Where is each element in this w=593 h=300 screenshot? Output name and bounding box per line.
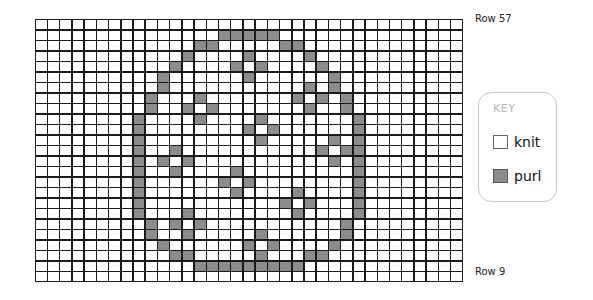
knit-cell: [402, 230, 413, 239]
knit-cell: [73, 251, 84, 260]
knit-cell: [36, 52, 47, 61]
knit-cell: [329, 41, 340, 50]
knit-cell: [378, 220, 389, 229]
knit-cell: [439, 73, 450, 82]
knit-cell: [231, 241, 242, 250]
knit-cell: [317, 125, 328, 134]
knit-cell: [36, 241, 47, 250]
knit-cell: [305, 115, 316, 124]
knit-cell: [451, 178, 462, 187]
purl-cell: [244, 125, 255, 134]
knit-cell: [427, 20, 438, 29]
knit-cell: [170, 136, 181, 145]
knit-cell: [354, 272, 365, 281]
knit-cell: [60, 62, 71, 71]
knit-cell: [439, 157, 450, 166]
knit-cell: [158, 125, 169, 134]
knit-cell: [256, 125, 267, 134]
knit-cell: [366, 125, 377, 134]
purl-cell: [305, 251, 316, 260]
knit-cell: [280, 241, 291, 250]
knit-cell: [329, 188, 340, 197]
knit-cell: [427, 262, 438, 271]
knit-swatch-icon: [493, 135, 508, 149]
knit-cell: [85, 199, 96, 208]
knit-cell: [317, 167, 328, 176]
knit-cell: [427, 220, 438, 229]
knit-cell: [244, 167, 255, 176]
knit-cell: [427, 31, 438, 40]
knit-cell: [451, 220, 462, 229]
purl-cell: [170, 220, 181, 229]
knit-cell: [195, 20, 206, 29]
knit-cell: [134, 241, 145, 250]
knit-cell: [183, 94, 194, 103]
knit-cell: [97, 167, 108, 176]
knit-cell: [256, 188, 267, 197]
knit-cell: [439, 167, 450, 176]
knit-cell: [36, 167, 47, 176]
knit-cell: [158, 178, 169, 187]
knit-cell: [293, 104, 304, 113]
knit-cell: [439, 209, 450, 218]
knit-cell: [244, 157, 255, 166]
knit-cell: [122, 20, 133, 29]
knit-cell: [231, 199, 242, 208]
knit-cell: [439, 272, 450, 281]
knit-cell: [183, 115, 194, 124]
knit-cell: [122, 115, 133, 124]
knit-cell: [305, 188, 316, 197]
knit-cell: [36, 115, 47, 124]
knit-cell: [73, 220, 84, 229]
knit-cell: [293, 20, 304, 29]
knit-cell: [60, 230, 71, 239]
knit-cell: [305, 94, 316, 103]
knit-cell: [354, 104, 365, 113]
knit-cell: [219, 220, 230, 229]
knit-cell: [170, 20, 181, 29]
purl-cell: [231, 31, 242, 40]
knit-cell: [48, 73, 59, 82]
knit-cell: [317, 178, 328, 187]
knit-cell: [134, 104, 145, 113]
knit-cell: [207, 272, 218, 281]
knit-cell: [109, 146, 120, 155]
knit-cell: [268, 62, 279, 71]
knit-cell: [146, 146, 157, 155]
knit-cell: [109, 209, 120, 218]
knit-cell: [427, 230, 438, 239]
knit-cell: [305, 220, 316, 229]
knit-cell: [329, 94, 340, 103]
purl-cell: [195, 94, 206, 103]
purl-cell: [134, 199, 145, 208]
knit-cell: [390, 209, 401, 218]
knit-cell: [146, 41, 157, 50]
knit-cell: [451, 115, 462, 124]
knit-cell: [366, 188, 377, 197]
purl-cell: [305, 199, 316, 208]
knit-cell: [48, 178, 59, 187]
purl-cell: [195, 115, 206, 124]
knit-cell: [231, 230, 242, 239]
purl-cell: [170, 251, 181, 260]
knit-cell: [439, 94, 450, 103]
knit-cell: [122, 31, 133, 40]
knit-cell: [366, 167, 377, 176]
knit-cell: [268, 52, 279, 61]
knit-cell: [195, 188, 206, 197]
purl-cell: [146, 104, 157, 113]
knit-cell: [415, 20, 426, 29]
knit-cell: [219, 157, 230, 166]
knit-cell: [85, 146, 96, 155]
purl-cell: [305, 104, 316, 113]
knit-cell: [402, 220, 413, 229]
knit-cell: [378, 104, 389, 113]
knit-cell: [122, 262, 133, 271]
knit-cell: [122, 146, 133, 155]
knit-cell: [109, 83, 120, 92]
knit-cell: [329, 262, 340, 271]
knit-cell: [268, 146, 279, 155]
knit-cell: [439, 115, 450, 124]
knit-cell: [329, 199, 340, 208]
purl-cell: [354, 188, 365, 197]
